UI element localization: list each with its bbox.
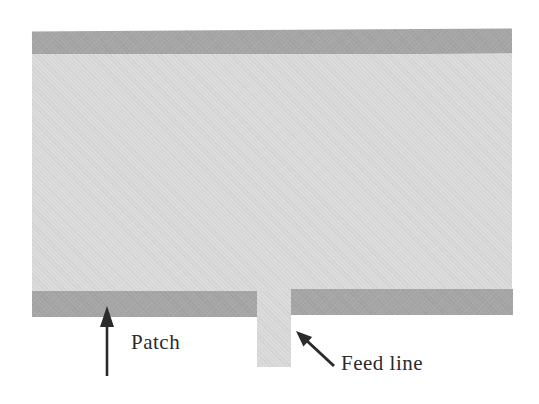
feed-line-label: Feed line (341, 351, 423, 376)
substrate-band-bottom-left (32, 291, 257, 317)
antenna-figure: Patch Feed line (0, 0, 539, 404)
patch-label: Patch (131, 330, 180, 355)
substrate-band-bottom-right (291, 289, 513, 315)
substrate-band-top (32, 29, 512, 57)
feed-line-arrow (296, 331, 334, 366)
patch-rect (32, 54, 512, 291)
feed-line-rect (257, 291, 291, 367)
